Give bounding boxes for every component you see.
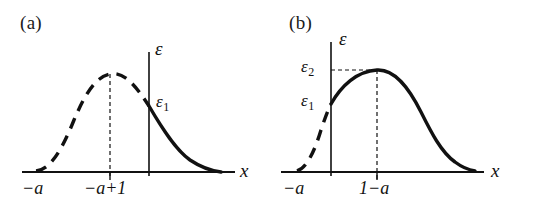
x-tick-label-minus-a-b: −a	[283, 178, 304, 199]
epsilon-axis-label-a: ε	[155, 38, 163, 60]
x-axis-label-a: x	[240, 160, 248, 182]
x-axis-label-b: x	[491, 160, 499, 182]
epsilon1-sub-b: 1	[308, 99, 315, 113]
curve-solid-a	[149, 106, 221, 172]
epsilon1-sub-a: 1	[163, 100, 170, 114]
epsilon1-base-a: ε	[156, 92, 163, 111]
panel-b: (b) ε x ε2 ε1 −a 1−a	[269, 0, 537, 210]
curve-solid-b	[331, 70, 475, 171]
epsilon-axis-label-b: ε	[339, 28, 347, 50]
panel-a: (a) ε x ε1 −a −a+1	[0, 0, 268, 210]
epsilon2-value-label-b: ε2	[301, 57, 314, 80]
epsilon2-sub-b: 2	[308, 65, 315, 79]
epsilon1-base-b: ε	[301, 91, 308, 110]
x-tick-label-peak-b: 1−a	[359, 178, 389, 199]
epsilon1-value-label-a: ε1	[156, 92, 169, 115]
x-tick-label-peak-a: −a+1	[84, 178, 126, 199]
epsilon1-value-label-b: ε1	[301, 91, 314, 114]
figure-container: (a) ε x ε1 −a −a+1 (b)	[0, 0, 537, 210]
x-tick-label-minus-a-a: −a	[22, 178, 43, 199]
epsilon2-base-b: ε	[301, 57, 308, 76]
curve-dashed-a	[36, 74, 149, 171]
